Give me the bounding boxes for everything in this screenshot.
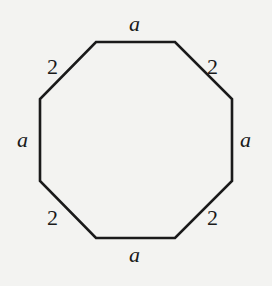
label-bottom-left: 2 <box>47 205 58 230</box>
octagon-diagram: a 2 a 2 a 2 a 2 <box>0 0 272 286</box>
octagon-shape <box>40 42 232 238</box>
label-left: a <box>17 127 28 152</box>
label-top-left: 2 <box>47 54 58 79</box>
label-top-right: 2 <box>207 54 218 79</box>
label-right: a <box>240 127 251 152</box>
label-bottom: a <box>129 242 140 267</box>
label-bottom-right: 2 <box>207 205 218 230</box>
label-top: a <box>129 11 140 36</box>
